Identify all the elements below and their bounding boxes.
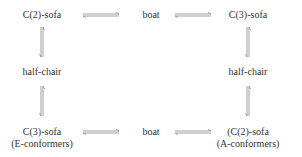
equilibrium-arrows bbox=[0, 0, 302, 157]
equilibrium-arrow-icon bbox=[40, 86, 45, 116]
equilibrium-arrow-icon bbox=[83, 130, 119, 135]
equilibrium-arrow-icon bbox=[246, 86, 251, 116]
equilibrium-arrow-icon bbox=[40, 27, 45, 57]
equilibrium-arrow-icon bbox=[83, 13, 119, 18]
equilibrium-arrow-icon bbox=[246, 27, 251, 57]
equilibrium-arrow-icon bbox=[175, 13, 211, 18]
equilibrium-arrow-icon bbox=[175, 130, 211, 135]
